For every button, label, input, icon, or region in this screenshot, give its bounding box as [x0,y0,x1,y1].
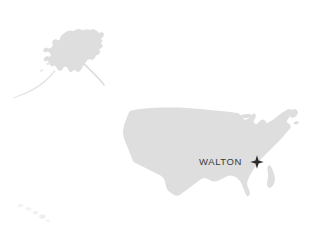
us-locator-map: WALTON [0,0,327,234]
map-canvas: WALTON [0,0,327,234]
city-label-walton: WALTON [199,156,242,167]
